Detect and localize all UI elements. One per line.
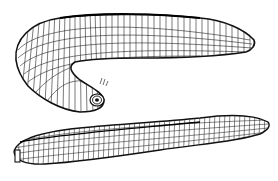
curled-leech: [16, 10, 255, 114]
extended-leech: [14, 110, 269, 170]
leech-illustration: [0, 0, 278, 181]
posterior-sucker: [90, 94, 104, 106]
anterior-sucker: [15, 150, 20, 162]
